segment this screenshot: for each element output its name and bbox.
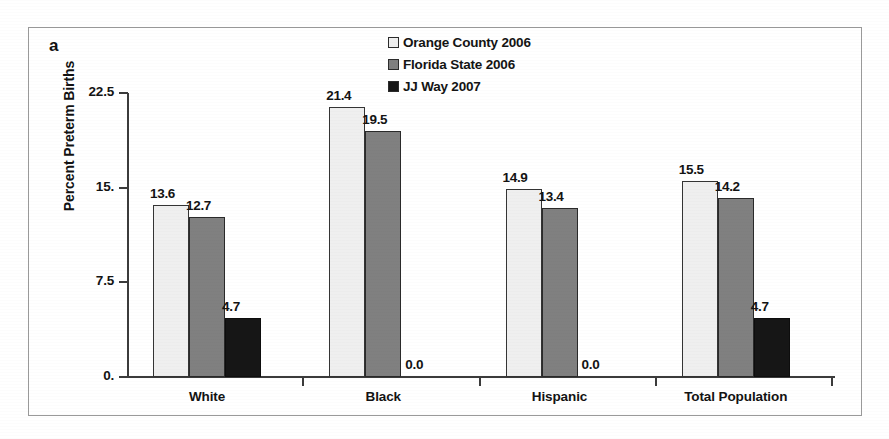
plot-area: 13.612.74.721.419.50.014.913.40.015.514.…: [127, 93, 832, 377]
bar-value-label: 14.9: [503, 170, 528, 185]
bar-value-label: 19.5: [362, 112, 387, 127]
bar-value-label: 14.2: [715, 179, 740, 194]
bar-value-label: 12.7: [186, 198, 211, 213]
bar-value-label: 0.0: [582, 357, 600, 372]
y-tick-label: 0.: [44, 368, 114, 383]
x-tick-mark: [479, 378, 481, 386]
legend-label-series-0: Orange County 2006: [403, 35, 531, 50]
bar-hispanic-series-1: [542, 208, 578, 377]
panel-label: a: [49, 36, 58, 56]
y-tick-label: 7.5: [44, 273, 114, 288]
y-axis-title: Percent Preterm Births: [61, 21, 77, 251]
x-category-label: Hispanic: [480, 389, 640, 404]
bar-value-label: 21.4: [326, 88, 351, 103]
legend-item-florida-state-2006: Florida State 2006: [388, 54, 618, 75]
x-tick-mark: [302, 378, 304, 386]
x-category-label: Total Population: [656, 389, 816, 404]
x-category-label: Black: [303, 389, 463, 404]
legend-item-orange-county-2006: Orange County 2006: [388, 32, 618, 53]
legend-label-series-2: JJ Way 2007: [403, 79, 481, 94]
bar-total-population-series-0: [682, 181, 718, 377]
chart-legend: Orange County 2006 Florida State 2006 JJ…: [388, 32, 618, 98]
bar-value-label: 13.6: [150, 186, 175, 201]
bar-total-population-series-1: [718, 198, 754, 377]
bar-hispanic-series-0: [506, 189, 542, 377]
bar-black-series-1: [365, 131, 401, 377]
y-tick-label: 22.5: [44, 84, 114, 99]
bar-white-series-0: [153, 205, 189, 377]
bar-value-label: 0.0: [405, 357, 423, 372]
bar-black-series-0: [329, 107, 365, 377]
bar-value-label: 4.7: [222, 299, 240, 314]
x-tick-mark: [831, 378, 833, 386]
bar-white-series-1: [189, 217, 225, 377]
bar-value-label: 13.4: [539, 189, 564, 204]
legend-swatch-icon-series-0: [388, 37, 399, 48]
bar-white-series-2: [225, 318, 261, 377]
legend-label-series-1: Florida State 2006: [403, 57, 515, 72]
bar-value-label: 4.7: [751, 299, 769, 314]
figure-panel-a: a Orange County 2006 Florida State 2006 …: [0, 0, 889, 439]
x-category-label: White: [127, 389, 287, 404]
y-tick-label: 15.: [44, 179, 114, 194]
legend-swatch-icon-series-1: [388, 59, 399, 70]
legend-swatch-icon-series-2: [388, 81, 399, 92]
bar-total-population-series-2: [754, 318, 790, 377]
x-tick-mark: [655, 378, 657, 386]
bar-value-label: 15.5: [679, 162, 704, 177]
